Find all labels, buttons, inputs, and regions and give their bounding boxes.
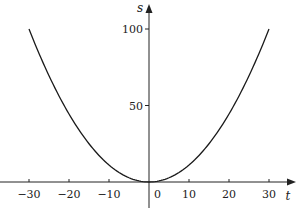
x-tick-label: −30: [17, 188, 40, 201]
x-tick-label: 20: [222, 188, 236, 201]
y-axis-label: s: [137, 1, 143, 15]
x-tick-label: 30: [262, 188, 276, 201]
parabola-chart: t s −30−20−10010203050100: [0, 0, 296, 208]
x-tick-label: 10: [182, 188, 196, 201]
axes: t s: [0, 1, 296, 208]
y-axis-arrow-icon: [146, 4, 153, 13]
x-axis-label: t: [286, 189, 291, 203]
x-tick-label: 0: [154, 188, 161, 201]
y-tick-label: 50: [129, 100, 143, 113]
x-axis-arrow-icon: [287, 179, 296, 186]
x-tick-label: −20: [57, 188, 80, 201]
x-tick-label: −10: [97, 188, 120, 201]
y-tick-label: 100: [122, 23, 143, 36]
ticks: −30−20−10010203050100: [17, 23, 276, 201]
